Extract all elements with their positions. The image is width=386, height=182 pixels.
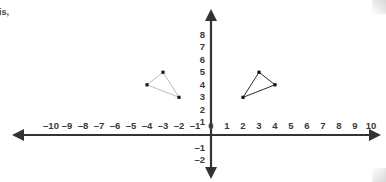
- coordinate-plane: [0, 0, 386, 182]
- x-tick-label: 5: [288, 121, 293, 131]
- x-tick-label: 1: [224, 121, 229, 131]
- x-tick-label: 6: [304, 121, 309, 131]
- right-triangle-vertex: [257, 71, 260, 74]
- graph-screenshot: is, –10–9–8–7–6–5–4–3–2–1012345678910876…: [0, 0, 386, 182]
- x-tick-label: –4: [142, 121, 153, 131]
- series-left-triangle: [145, 71, 180, 99]
- x-axis-right-arrow: [369, 129, 381, 141]
- x-tick-label: 8: [336, 121, 341, 131]
- y-tick-label: 3: [200, 93, 205, 103]
- y-tick-label: 5: [200, 68, 205, 78]
- x-tick-label: –1: [190, 121, 201, 131]
- y-tick-label: 4: [200, 80, 205, 90]
- x-tick-label: 2: [240, 121, 245, 131]
- left-triangle-vertex: [161, 71, 164, 74]
- x-axis-left-arrow: [12, 129, 24, 141]
- right-triangle-outline: [243, 72, 275, 97]
- right-triangle-vertex: [241, 96, 244, 99]
- x-tick-label: –8: [78, 121, 89, 131]
- series-right-triangle: [241, 71, 276, 99]
- y-tick-label: 6: [200, 55, 205, 65]
- y-tick-label: 2: [200, 105, 205, 115]
- right-triangle-vertex: [273, 83, 276, 86]
- x-tick-label: –9: [62, 121, 73, 131]
- left-triangle-vertex: [145, 83, 148, 86]
- x-tick-label: –2: [174, 121, 185, 131]
- x-tick-label: 4: [272, 121, 277, 131]
- x-tick-label: –6: [110, 121, 121, 131]
- x-tick-label: –3: [158, 121, 169, 131]
- x-tick-label: –10: [43, 121, 59, 131]
- y-tick-label: –2: [194, 155, 205, 165]
- x-tick-label: –7: [94, 121, 105, 131]
- x-tick-label: 7: [320, 121, 325, 131]
- x-tick-label: 0: [208, 121, 213, 131]
- left-triangle-outline: [147, 72, 179, 97]
- x-tick-label: 10: [366, 121, 377, 131]
- y-tick-label: 7: [200, 42, 205, 52]
- y-tick-label: 1: [200, 118, 205, 128]
- y-axis-bottom-arrow: [205, 167, 217, 179]
- left-triangle-vertex: [177, 96, 180, 99]
- x-tick-label: 9: [352, 121, 357, 131]
- x-tick-label: 3: [256, 121, 261, 131]
- x-tick-label: –5: [126, 121, 137, 131]
- y-tick-label: –1: [194, 143, 205, 153]
- y-tick-label: 8: [200, 30, 205, 40]
- y-axis-top-arrow: [205, 9, 217, 21]
